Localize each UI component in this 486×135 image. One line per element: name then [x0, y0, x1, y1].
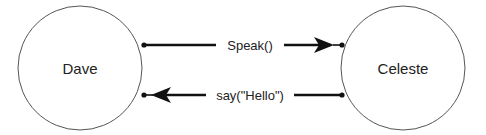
say-hello-label: say("Hello")	[216, 88, 284, 103]
dave-label: Dave	[62, 60, 97, 77]
message-say-hello: say("Hello")	[141, 87, 344, 103]
node-dave: Dave	[18, 6, 142, 130]
dot-icon	[141, 92, 146, 97]
celeste-label: Celeste	[378, 60, 429, 77]
speak-label: Speak()	[227, 38, 273, 53]
dot-icon	[339, 92, 344, 97]
diagram-canvas: Dave Celeste Speak() say("Hello")	[0, 0, 486, 135]
node-celeste: Celeste	[341, 6, 465, 130]
message-speak: Speak()	[141, 37, 344, 53]
dot-icon	[141, 42, 146, 47]
dot-icon	[339, 42, 344, 47]
